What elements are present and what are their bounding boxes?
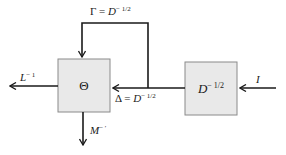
m-exponent: − ′ [99,124,106,132]
gamma-label: Γ = D− 1/2 [90,6,131,17]
d-exponent: − 1/2 [207,81,224,90]
m-base: M [90,124,99,136]
gamma-prefix: Γ = [90,5,108,17]
l-output-label: L− 1 [20,72,35,83]
delta-exponent: − 1/2 [141,92,156,100]
theta-symbol: Θ [79,78,88,93]
l-exponent: − 1 [26,71,35,79]
m-output-label: M− ′ [90,125,106,136]
diagram-canvas [0,0,286,155]
theta-label: Θ [58,79,110,92]
delta-prefix: Δ = [115,92,133,104]
d-base: D [198,81,207,96]
input-symbol: I [256,73,260,85]
d-label: D− 1/2 [185,82,237,95]
delta-base: D [133,92,141,104]
gamma-base: D [108,5,116,17]
input-label: I [256,74,260,85]
gamma-exponent: − 1/2 [116,5,131,13]
delta-label: Δ = D− 1/2 [115,93,156,104]
